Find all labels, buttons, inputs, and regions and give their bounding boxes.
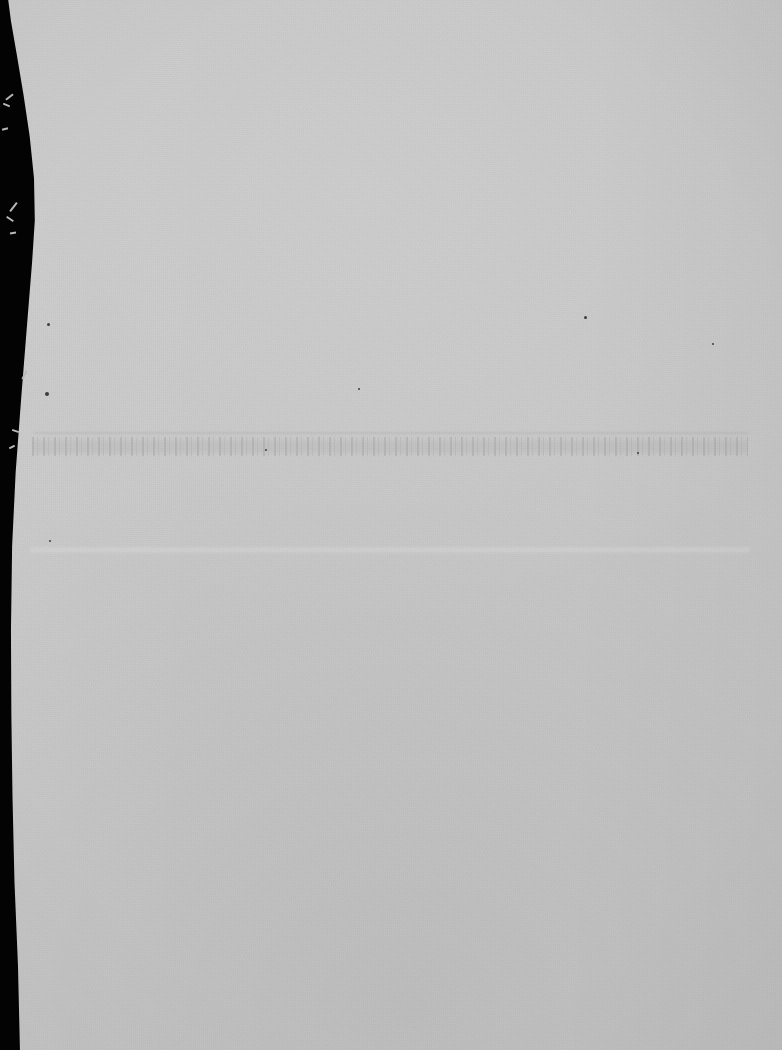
paper-grain-texture xyxy=(0,0,782,1050)
scanned-document-viewport xyxy=(0,0,782,1050)
paper-sheet xyxy=(0,0,782,1050)
